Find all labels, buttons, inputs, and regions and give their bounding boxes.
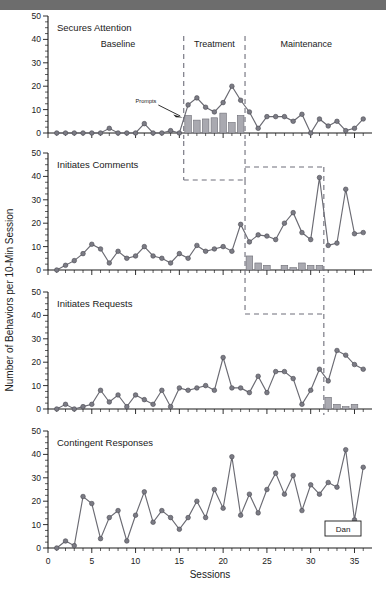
- data-point: [352, 231, 357, 236]
- data-point: [160, 131, 165, 136]
- data-point: [177, 131, 182, 136]
- y-tick-label: 0: [36, 128, 41, 138]
- data-point: [107, 126, 112, 131]
- data-point: [256, 233, 261, 238]
- subject-legend: Dan: [325, 521, 361, 536]
- data-point: [168, 128, 173, 133]
- y-tick-label: 20: [32, 496, 42, 506]
- data-point: [72, 258, 77, 263]
- y-tick-label: 50: [32, 148, 42, 158]
- data-point: [343, 187, 348, 192]
- data-point: [98, 247, 103, 252]
- data-point: [98, 388, 103, 393]
- data-point: [317, 175, 322, 180]
- data-point: [212, 388, 217, 393]
- data-line: [57, 450, 363, 548]
- prompt-bar: [325, 397, 332, 409]
- data-point: [177, 527, 182, 532]
- data-point: [177, 386, 182, 391]
- y-axis-label: Number of Behaviors per 10-Min Session: [4, 209, 15, 392]
- data-point: [142, 397, 147, 402]
- data-point: [72, 407, 77, 412]
- prompt-bar: [307, 265, 314, 270]
- y-tick-label: 10: [32, 242, 42, 252]
- data-point: [54, 546, 59, 551]
- data-point: [116, 508, 121, 513]
- data-point: [160, 388, 165, 393]
- data-point: [282, 369, 287, 374]
- data-point: [63, 402, 68, 407]
- data-point: [361, 465, 366, 470]
- data-point: [142, 490, 147, 495]
- data-point: [81, 494, 86, 499]
- x-tick-label: 15: [175, 556, 185, 566]
- data-point: [256, 511, 261, 516]
- y-tick-label: 40: [32, 34, 42, 44]
- data-point: [300, 508, 305, 513]
- data-point: [282, 114, 287, 119]
- data-point: [256, 126, 261, 131]
- data-point: [300, 230, 305, 235]
- y-tick-label: 30: [32, 195, 42, 205]
- data-point: [273, 237, 278, 242]
- data-point: [221, 100, 226, 105]
- prompt-bar: [237, 115, 244, 133]
- data-point: [343, 447, 348, 452]
- x-tick-label: 20: [218, 556, 228, 566]
- data-point: [326, 480, 331, 485]
- data-point: [89, 242, 94, 247]
- data-point: [186, 515, 191, 520]
- data-point: [89, 501, 94, 506]
- data-point: [116, 249, 121, 254]
- y-tick-label: 10: [32, 381, 42, 391]
- x-tick-label: 35: [350, 556, 360, 566]
- data-point: [352, 362, 357, 367]
- data-point: [230, 386, 235, 391]
- data-point: [151, 131, 156, 136]
- data-point: [343, 128, 348, 133]
- prompts-arrow: [158, 105, 180, 116]
- data-point: [98, 131, 103, 136]
- data-point: [107, 515, 112, 520]
- data-point: [317, 492, 322, 497]
- data-point: [335, 348, 340, 353]
- data-point: [361, 367, 366, 372]
- data-point: [247, 390, 252, 395]
- y-tick-label: 10: [32, 520, 42, 530]
- data-point: [247, 110, 252, 115]
- prompts-label: Prompts: [136, 98, 157, 104]
- data-point: [203, 249, 208, 254]
- data-point: [282, 221, 287, 226]
- data-point: [54, 131, 59, 136]
- data-point: [221, 506, 226, 511]
- data-point: [116, 393, 121, 398]
- data-point: [133, 254, 138, 259]
- x-tick-label: 30: [306, 556, 316, 566]
- data-point: [247, 240, 252, 245]
- data-point: [142, 121, 147, 126]
- data-point: [151, 254, 156, 259]
- y-tick-label: 50: [32, 426, 42, 436]
- data-point: [238, 386, 243, 391]
- data-point: [291, 473, 296, 478]
- data-point: [168, 261, 173, 266]
- phase-label: Baseline: [101, 39, 136, 49]
- data-line: [57, 86, 363, 133]
- data-point: [133, 131, 138, 136]
- data-point: [300, 402, 305, 407]
- x-tick-label: 25: [262, 556, 272, 566]
- data-point: [317, 117, 322, 122]
- prompt-bar: [211, 118, 218, 133]
- data-point: [125, 131, 130, 136]
- data-point: [221, 355, 226, 360]
- panel-contingent-responses: 0102030405005101520253035Contingent Resp…: [32, 426, 372, 566]
- data-point: [63, 263, 68, 268]
- y-tick-label: 40: [32, 171, 42, 181]
- data-point: [81, 251, 86, 256]
- data-point: [63, 131, 68, 136]
- prompt-bar: [290, 268, 297, 270]
- subject-legend-label: Dan: [336, 525, 351, 534]
- y-tick-label: 20: [32, 81, 42, 91]
- data-point: [265, 390, 270, 395]
- prompt-bar: [255, 263, 262, 270]
